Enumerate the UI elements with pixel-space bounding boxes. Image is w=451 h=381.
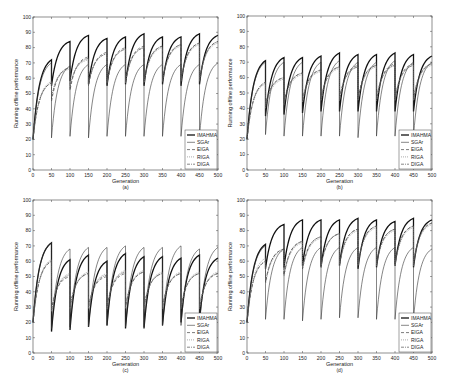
legend-label-diga: DIGA [197, 161, 210, 167]
legend: IMAHMASGArEIGARIGADIGA [185, 130, 218, 169]
x-tick-label: 500 [428, 172, 437, 178]
y-tick-label: 70 [25, 60, 31, 66]
y-tick-label: 70 [239, 59, 245, 65]
y-tick-label: 0 [28, 167, 31, 173]
chart-panel-c: 0501001502002503003504004505000102030405… [13, 197, 222, 373]
y-tick-label: 30 [25, 121, 31, 127]
y-tick-label: 100 [23, 197, 32, 203]
legend-label-riga: RIGA [197, 154, 210, 160]
x-tick-label: 300 [354, 172, 363, 178]
panel-caption: (c) [123, 367, 129, 373]
x-tick-label: 150 [298, 172, 307, 178]
y-tick-label: 100 [23, 14, 32, 20]
panel-caption: (a) [122, 184, 128, 190]
y-tick-label: 70 [239, 243, 245, 249]
y-tick-label: 80 [25, 227, 31, 233]
x-tick-label: 100 [280, 355, 289, 361]
y-tick-label: 60 [239, 74, 245, 80]
x-tick-label: 450 [409, 355, 418, 361]
panel-caption: (b) [336, 184, 342, 190]
y-tick-label: 70 [25, 243, 31, 249]
y-tick-label: 90 [239, 28, 245, 34]
legend-label-riga: RIGA [411, 154, 424, 160]
legend-label-diga: DIGA [411, 161, 424, 167]
legend-label-imahma: IMAHMA [411, 315, 432, 321]
y-tick-label: 50 [25, 90, 31, 96]
x-tick-label: 500 [428, 355, 437, 361]
y-tick-label: 90 [25, 212, 31, 218]
y-tick-label: 50 [25, 273, 31, 279]
x-tick-label: 300 [140, 172, 149, 178]
x-tick-label: 200 [317, 172, 326, 178]
x-tick-label: 350 [158, 172, 167, 178]
x-tick-label: 50 [49, 172, 55, 178]
y-tick-label: 40 [239, 289, 245, 295]
x-tick-label: 0 [32, 172, 35, 178]
y-axis-label: Running offline performance [227, 59, 233, 128]
x-tick-label: 500 [214, 172, 223, 178]
y-tick-label: 0 [28, 350, 31, 356]
x-tick-label: 200 [103, 355, 112, 361]
chart-panel-a: 0501001502002503003504004505000102030405… [13, 14, 222, 190]
legend-label-sgar: SGAr [411, 139, 424, 145]
chart-panel-d: 0501001502002503003504004505000102030405… [227, 197, 436, 373]
y-tick-label: 10 [239, 151, 245, 157]
legend: IMAHMASGArEIGARIGADIGA [399, 130, 432, 169]
y-tick-label: 40 [25, 289, 31, 295]
series-group [33, 34, 218, 140]
legend-label-sgar: SGAr [197, 139, 210, 145]
chart-panel-b: 0501001502002503003504004505000102030405… [227, 13, 436, 190]
y-tick-label: 40 [239, 105, 245, 111]
x-tick-label: 300 [140, 355, 149, 361]
y-tick-label: 60 [239, 258, 245, 264]
legend-label-imahma: IMAHMA [197, 132, 218, 138]
x-tick-label: 150 [84, 172, 93, 178]
x-tick-label: 200 [103, 172, 112, 178]
y-tick-label: 40 [25, 106, 31, 112]
x-tick-label: 300 [354, 355, 363, 361]
x-tick-label: 150 [84, 355, 93, 361]
y-tick-label: 30 [239, 304, 245, 310]
x-tick-label: 50 [49, 355, 55, 361]
y-tick-label: 30 [239, 121, 245, 127]
legend-label-imahma: IMAHMA [197, 315, 218, 321]
x-tick-label: 450 [409, 172, 418, 178]
legend: IMAHMASGArEIGARIGADIGA [185, 313, 218, 352]
y-tick-label: 20 [25, 319, 31, 325]
legend-label-eiga: EIGA [197, 329, 210, 335]
x-tick-label: 400 [391, 355, 400, 361]
x-tick-label: 0 [32, 355, 35, 361]
x-tick-label: 350 [372, 172, 381, 178]
legend: IMAHMASGArEIGARIGADIGA [399, 313, 432, 352]
x-tick-label: 400 [177, 355, 186, 361]
y-tick-label: 80 [239, 227, 245, 233]
y-tick-label: 20 [25, 136, 31, 142]
x-tick-label: 50 [263, 172, 269, 178]
series-group [247, 53, 432, 139]
legend-label-sgar: SGAr [411, 322, 424, 328]
y-tick-label: 90 [25, 29, 31, 35]
x-tick-label: 100 [280, 172, 289, 178]
y-tick-label: 10 [25, 152, 31, 158]
x-tick-label: 100 [66, 172, 75, 178]
x-tick-label: 150 [298, 355, 307, 361]
legend-label-imahma: IMAHMA [411, 132, 432, 138]
y-tick-label: 0 [242, 350, 245, 356]
y-tick-label: 50 [239, 273, 245, 279]
x-tick-label: 400 [177, 172, 186, 178]
x-tick-label: 350 [158, 355, 167, 361]
y-tick-label: 100 [237, 13, 246, 19]
x-tick-label: 350 [372, 355, 381, 361]
x-tick-label: 450 [195, 172, 204, 178]
series-group [247, 218, 432, 322]
legend-label-eiga: EIGA [197, 146, 210, 152]
x-tick-label: 0 [246, 355, 249, 361]
x-tick-label: 100 [66, 355, 75, 361]
y-tick-label: 20 [239, 136, 245, 142]
legend-label-diga: DIGA [197, 344, 210, 350]
y-axis-label: Running offline performance [227, 242, 233, 311]
x-tick-label: 400 [391, 172, 400, 178]
y-axis-label: Running offline performance [13, 242, 19, 311]
legend-label-riga: RIGA [197, 337, 210, 343]
y-tick-label: 10 [239, 335, 245, 341]
